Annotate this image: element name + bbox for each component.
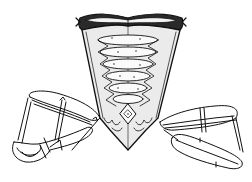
left-pannier [13, 91, 101, 162]
corset-illustration [0, 0, 252, 182]
right-pannier [160, 106, 243, 169]
illustration-canvas [0, 0, 252, 182]
